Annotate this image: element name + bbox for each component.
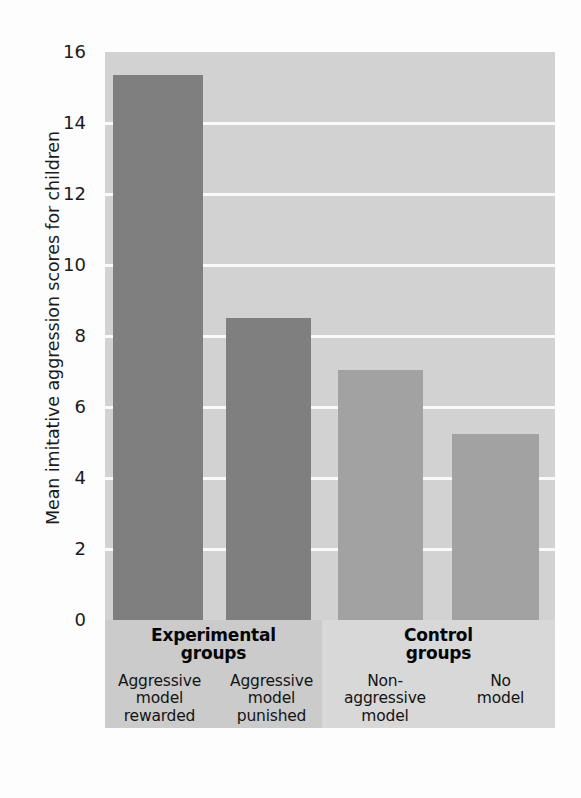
bar-4 xyxy=(452,434,539,620)
bar-caption-3-line1: Non- xyxy=(367,672,403,690)
bar-caption-1-line2: model xyxy=(136,689,183,707)
y-tick-16: 16 xyxy=(63,43,86,61)
bar-caption-1: Aggressive model rewarded xyxy=(107,673,212,725)
y-tick-14: 14 xyxy=(63,114,86,132)
bar-caption-3-line2: aggressive xyxy=(344,689,426,707)
bar-2 xyxy=(226,318,311,620)
bar-series xyxy=(105,52,555,620)
group-heading-experimental-line2: groups xyxy=(181,643,246,663)
y-tick-0: 0 xyxy=(75,611,86,629)
bar-caption-2-line2: model xyxy=(248,689,295,707)
bar-caption-2: Aggressive model punished xyxy=(219,673,324,725)
bar-chart-figure: Mean imitative aggression scores for chi… xyxy=(0,0,581,798)
bar-caption-4-line1: No xyxy=(490,672,511,690)
bar-caption-1-line3: rewarded xyxy=(124,707,195,725)
group-heading-experimental-line1: Experimental xyxy=(151,625,276,645)
y-tick-2: 2 xyxy=(75,540,86,558)
y-tick-4: 4 xyxy=(75,469,86,487)
group-heading-experimental: Experimental groups xyxy=(105,626,322,663)
bar-caption-1-line1: Aggressive xyxy=(118,672,201,690)
plot-area xyxy=(105,52,555,620)
bar-1 xyxy=(113,75,203,620)
group-heading-control: Control groups xyxy=(322,626,555,663)
bar-caption-2-line1: Aggressive xyxy=(230,672,313,690)
bar-caption-3-line3: model xyxy=(361,707,408,725)
bar-caption-3: Non- aggressive model xyxy=(332,673,438,725)
bar-3 xyxy=(338,370,423,620)
group-heading-control-line1: Control xyxy=(404,625,473,645)
y-tick-6: 6 xyxy=(75,398,86,416)
y-axis-tick-labels: 16 14 12 10 8 6 4 2 0 xyxy=(46,52,96,620)
y-tick-12: 12 xyxy=(63,185,86,203)
category-label-band: Experimental groups Control groups Aggre… xyxy=(105,620,555,728)
bar-caption-4: No model xyxy=(448,673,553,708)
y-tick-8: 8 xyxy=(75,327,86,345)
group-heading-control-line2: groups xyxy=(406,643,471,663)
y-tick-10: 10 xyxy=(63,256,86,274)
bar-caption-4-line2: model xyxy=(477,689,524,707)
bar-caption-2-line3: punished xyxy=(237,707,306,725)
